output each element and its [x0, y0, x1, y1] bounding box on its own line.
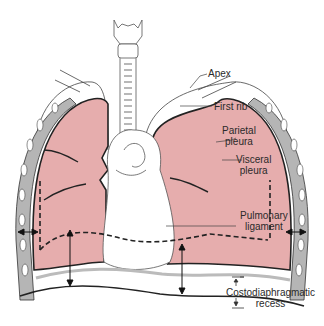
- label-visceral-pleura: Visceral pleura: [236, 154, 271, 176]
- label-parietal-line2: pleura: [222, 136, 256, 147]
- lung-pleura-diagram: [0, 0, 324, 326]
- label-apex: Apex: [208, 68, 231, 79]
- label-pulmonary-line2: ligament: [240, 221, 288, 232]
- label-parietal-pleura: Parietal pleura: [222, 125, 256, 147]
- label-parietal-line1: Parietal: [222, 125, 256, 136]
- label-visceral-line2: pleura: [236, 165, 271, 176]
- label-visceral-line1: Visceral: [236, 154, 271, 165]
- label-costo-line2: recess: [226, 298, 315, 309]
- label-costo-line1: Costodiaphragmatic: [226, 287, 315, 298]
- label-pulmonary-line1: Pulmonary: [240, 210, 288, 221]
- label-apex-text: Apex: [208, 68, 231, 79]
- label-first-rib: First rib: [214, 101, 247, 112]
- label-pulmonary-ligament: Pulmonary ligament: [240, 210, 288, 232]
- label-costodiaphragmatic-recess: Costodiaphragmatic recess: [226, 287, 315, 309]
- label-first-rib-text: First rib: [214, 101, 247, 112]
